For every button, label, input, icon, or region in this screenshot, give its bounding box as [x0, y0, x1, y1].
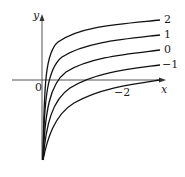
- curve-c0: [43, 50, 160, 160]
- y-axis-arrow-icon: [40, 14, 45, 21]
- plot-area: [0, 0, 185, 177]
- curve-cm2: [43, 80, 160, 160]
- y-axis-label: y: [33, 10, 39, 21]
- curve-label-minus-2: −2: [114, 87, 130, 98]
- origin-label: 0: [35, 82, 42, 93]
- x-axis-arrow-icon: [159, 78, 166, 83]
- x-axis-label: x: [161, 84, 167, 95]
- curve-cm1: [43, 65, 160, 160]
- curve-label-2: 2: [164, 14, 171, 25]
- curve-label-1: 1: [164, 29, 171, 40]
- curve-label-0: 0: [164, 44, 171, 55]
- curve-c2: [43, 20, 160, 160]
- curve-label-minus-1: −1: [162, 59, 178, 70]
